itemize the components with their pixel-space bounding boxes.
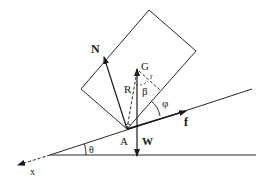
diagram-canvas: N G R r β φ f A W θ x (0, 0, 266, 184)
label-r-big: R (124, 84, 131, 95)
label-a: A (120, 136, 128, 147)
theta-arc (85, 144, 87, 155)
label-x: x (30, 167, 35, 177)
label-n: N (91, 43, 100, 55)
x-axis-dashed (18, 155, 50, 165)
diagram-svg (0, 0, 266, 184)
label-r-small: r (150, 73, 153, 81)
label-phi: φ (162, 98, 168, 109)
label-theta: θ (89, 145, 94, 155)
label-beta: β (142, 86, 148, 97)
friction-arrow (127, 111, 186, 129)
a-arc (125, 124, 131, 125)
r-dashed-line (127, 71, 137, 129)
block (81, 10, 196, 129)
label-f: f (184, 116, 188, 128)
label-w: W (142, 136, 153, 147)
label-g: G (141, 61, 149, 72)
phi-arc (151, 101, 160, 116)
